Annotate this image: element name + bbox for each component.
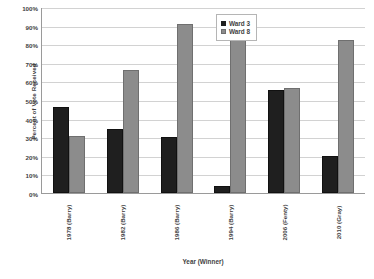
y-axis-tick-label: 20% — [14, 153, 38, 160]
x-axis-tick-cell: 2006 (Fenty) — [257, 195, 311, 253]
bar — [230, 40, 246, 193]
bar — [69, 136, 85, 193]
bar — [322, 156, 338, 193]
legend-item-label: Ward 3 — [229, 20, 250, 27]
x-axis-tick-cell: 1986 (Barry) — [149, 195, 203, 253]
y-axis-tick-label: 50% — [14, 98, 38, 105]
y-axis-tick-label: 0% — [14, 191, 38, 198]
bar — [284, 88, 300, 193]
plot-area — [41, 8, 365, 194]
x-axis-tick-label: 2010 (Gray) — [335, 206, 342, 240]
legend-item-label: Ward 8 — [229, 28, 250, 35]
bar — [123, 70, 139, 193]
bar-group — [96, 8, 150, 193]
x-axis-tick-cell: 1978 (Barry) — [41, 195, 95, 253]
x-axis-tick-cell: 1994 (Barry) — [203, 195, 257, 253]
legend-item: Ward 3 — [221, 20, 250, 27]
bar-group — [150, 8, 204, 193]
bar-group — [257, 8, 311, 193]
y-axis-tick-label: 80% — [14, 42, 38, 49]
y-axis-tick-labels: 100%90%80%70%60%50%40%30%20%10%0% — [14, 8, 38, 194]
y-axis-tick-label: 10% — [14, 172, 38, 179]
legend-swatch-icon — [221, 21, 226, 26]
bar — [338, 40, 354, 193]
y-axis-tick-label: 40% — [14, 116, 38, 123]
bar-group — [311, 8, 365, 193]
y-axis-tick-label: 60% — [14, 79, 38, 86]
bar-chart: Percent of Vote Received 100%90%80%70%60… — [0, 0, 374, 279]
y-axis-tick-label: 70% — [14, 60, 38, 67]
x-axis-title: Year (Winner) — [41, 258, 365, 265]
y-axis-tick-label: 100% — [14, 5, 38, 12]
x-axis-tick-label: 2006 (Fenty) — [281, 204, 288, 240]
legend-item: Ward 8 — [221, 28, 250, 35]
y-axis-tick-label: 90% — [14, 23, 38, 30]
bar — [161, 137, 177, 193]
bar-group — [42, 8, 96, 193]
bar — [268, 90, 284, 193]
bar — [177, 24, 193, 193]
bar — [107, 129, 123, 193]
x-axis-tick-cell: 2010 (Gray) — [311, 195, 365, 253]
legend-swatch-icon — [221, 29, 226, 34]
x-axis-tick-label: 1978 (Barry) — [65, 205, 72, 241]
x-axis-tick-label: 1986 (Barry) — [173, 205, 180, 241]
y-axis-tick-label: 30% — [14, 135, 38, 142]
x-axis-tick-label: 1994 (Barry) — [227, 205, 234, 241]
bar — [53, 107, 69, 193]
x-axis-tick-cell: 1982 (Barry) — [95, 195, 149, 253]
x-axis-tick-label: 1982 (Barry) — [119, 205, 126, 241]
bar-groups — [42, 8, 365, 193]
x-axis-tick-labels: 1978 (Barry)1982 (Barry)1986 (Barry)1994… — [41, 195, 365, 253]
chart-legend: Ward 3Ward 8 — [216, 14, 257, 41]
bar — [214, 186, 230, 193]
